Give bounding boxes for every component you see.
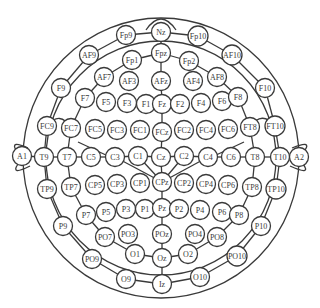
electrode-p1: P1 (136, 200, 155, 219)
electrode-label: P8 (235, 211, 243, 220)
electrode-label: F8 (234, 93, 242, 102)
electrode-label: F10 (259, 84, 271, 93)
electrode-label: Cz (157, 153, 166, 162)
electrode-label: P10 (255, 222, 267, 231)
electrode-c6: C6 (222, 148, 241, 167)
electrode-label: AF10 (223, 51, 241, 60)
electrode-label: CP1 (133, 179, 147, 188)
electrode-label: CPz (155, 178, 169, 187)
electrode-fc4: FC4 (197, 121, 216, 140)
electrode-poz: POz (153, 225, 172, 244)
electrode-label: F2 (176, 100, 184, 109)
electrode-p4: P4 (191, 201, 210, 220)
electrode-label: O1 (130, 250, 140, 259)
eeg-electrode-diagram: NzFp9Fp10FpzFp1Fp2AF9AF10AF7AF3AFzAF4AF8… (0, 0, 320, 308)
electrode-c1: C1 (129, 147, 148, 166)
electrode-label: AFz (154, 77, 168, 86)
electrode-p6: P6 (213, 203, 232, 222)
electrode-fc3: FC3 (108, 121, 127, 140)
electrode-cp2: CP2 (175, 174, 194, 193)
electrode-label: PO4 (188, 230, 202, 239)
electrode-t9: T9 (35, 148, 54, 167)
electrode-label: FC1 (133, 126, 147, 135)
electrode-label: AF9 (82, 51, 96, 60)
electrode-t7: T7 (58, 148, 77, 167)
electrode-label: Oz (157, 254, 167, 263)
electrode-label: Fp10 (190, 32, 206, 41)
electrode-label: TP10 (267, 185, 284, 194)
electrode-label: AF3 (122, 77, 136, 86)
electrode-label: F9 (57, 84, 65, 93)
electrode-fp2: Fp2 (180, 52, 199, 71)
electrode-label: T9 (40, 153, 49, 162)
electrode-label: C1 (133, 152, 142, 161)
electrode-af10: AF10 (222, 45, 242, 65)
electrode-f9: F9 (52, 79, 71, 98)
electrode-label: P6 (218, 208, 226, 217)
electrode-label: P9 (59, 222, 67, 231)
electrode-label: FC9 (40, 122, 54, 131)
electrode-o10: O10 (191, 268, 210, 287)
electrode-label: Pz (158, 204, 166, 213)
electrode-label: C3 (110, 153, 119, 162)
electrode-tp10: TP10 (266, 179, 286, 199)
electrode-label: TP8 (245, 183, 258, 192)
electrode-ft8: FT8 (241, 118, 260, 137)
electrode-oz: Oz (153, 249, 172, 268)
electrode-f5: F5 (97, 93, 116, 112)
electrode-label: O2 (183, 250, 193, 259)
electrode-p10: P10 (252, 217, 271, 236)
electrode-label: F5 (102, 98, 110, 107)
electrode-p8: P8 (230, 206, 249, 225)
electrode-fp9: Fp9 (117, 26, 136, 45)
electrode-af4: AF4 (184, 72, 203, 91)
electrode-af3: AF3 (120, 72, 139, 91)
electrode-af9: AF9 (80, 46, 99, 65)
electrode-label: POz (155, 230, 169, 239)
electrode-fc5: FC5 (86, 120, 105, 139)
electrode-po10: PO10 (227, 246, 247, 266)
electrode-c3: C3 (106, 148, 125, 167)
electrode-cz: Cz (152, 148, 171, 167)
electrode-label: P7 (82, 211, 90, 220)
electrode-f7: F7 (76, 89, 95, 108)
electrode-t8: T8 (246, 148, 265, 167)
electrode-c2: C2 (175, 147, 194, 166)
electrode-label: FC5 (88, 125, 102, 134)
electrode-cpz: CPz (153, 173, 172, 192)
electrode-label: PO3 (121, 230, 135, 239)
electrode-label: C5 (86, 153, 95, 162)
electrode-label: T10 (274, 153, 287, 162)
electrode-label: F6 (218, 97, 226, 106)
electrode-p9: P9 (54, 217, 73, 236)
electrode-label: Fz (158, 100, 166, 109)
electrode-label: FT10 (266, 122, 283, 131)
electrode-label: TP9 (40, 185, 53, 194)
electrode-fpz: Fpz (152, 44, 171, 63)
electrode-label: FC2 (177, 126, 191, 135)
electrode-tp7: TP7 (62, 178, 81, 197)
electrode-label: T7 (63, 153, 72, 162)
electrode-fcz: FCz (153, 123, 172, 142)
electrode-a2: A2 (290, 148, 309, 167)
electrode-label: F3 (123, 99, 131, 108)
electrode-tp9: TP9 (38, 180, 57, 199)
electrode-label: Fp1 (126, 56, 138, 65)
electrode-label: Iz (159, 280, 166, 289)
electrode-fc6: FC6 (219, 120, 238, 139)
electrode-label: P3 (122, 205, 130, 214)
electrode-o1: O1 (126, 245, 145, 264)
electrode-label: F7 (81, 94, 89, 103)
electrode-label: Fpz (155, 49, 167, 58)
electrode-label: F1 (142, 100, 150, 109)
electrode-label: Fp9 (120, 31, 132, 40)
electrode-po3: PO3 (119, 225, 138, 244)
electrode-o2: O2 (179, 245, 198, 264)
electrode-label: F4 (197, 99, 205, 108)
electrode-ft10: FT10 (265, 116, 285, 136)
electrode-label: O9 (121, 275, 131, 284)
electrode-label: FC3 (110, 126, 124, 135)
electrode-po4: PO4 (186, 225, 205, 244)
electrode-p3: P3 (117, 200, 136, 219)
electrode-f3: F3 (118, 94, 137, 113)
